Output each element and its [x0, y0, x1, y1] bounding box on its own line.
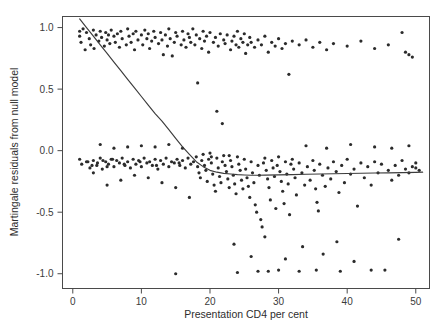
- data-point: [134, 30, 137, 33]
- data-point: [397, 238, 400, 241]
- data-point: [241, 187, 244, 190]
- data-point: [262, 161, 265, 164]
- data-point: [180, 43, 183, 46]
- data-point: [92, 159, 95, 162]
- data-point: [248, 196, 251, 199]
- data-point: [270, 41, 273, 44]
- data-point: [277, 155, 280, 158]
- data-point: [127, 35, 130, 38]
- data-point: [198, 37, 201, 40]
- data-point: [141, 43, 144, 46]
- data-point: [92, 28, 95, 31]
- data-point: [196, 81, 199, 84]
- data-point: [245, 176, 248, 179]
- data-point: [236, 155, 239, 158]
- data-point: [78, 30, 81, 33]
- data-point: [229, 159, 232, 162]
- data-point: [236, 30, 239, 33]
- data-point: [151, 164, 154, 167]
- data-point: [287, 182, 290, 185]
- data-point: [166, 44, 169, 47]
- data-point: [112, 165, 115, 168]
- data-point: [162, 53, 165, 56]
- data-point: [80, 163, 83, 166]
- data-point: [322, 252, 325, 255]
- data-point: [188, 36, 191, 39]
- data-point: [252, 181, 255, 184]
- data-point: [293, 176, 296, 179]
- data-point: [318, 163, 321, 166]
- data-point: [411, 56, 414, 59]
- data-point: [407, 53, 410, 56]
- data-point: [303, 184, 306, 187]
- data-point: [148, 160, 151, 163]
- data-point: [152, 30, 155, 33]
- data-point: [171, 54, 174, 57]
- y-tick-label: 1.0: [40, 22, 54, 33]
- data-point: [298, 270, 301, 273]
- data-point: [125, 43, 128, 46]
- data-point: [173, 161, 176, 164]
- data-point: [110, 158, 113, 161]
- data-point: [226, 177, 229, 180]
- data-point: [274, 207, 277, 210]
- data-point: [267, 270, 270, 273]
- data-point: [181, 30, 184, 33]
- data-point: [370, 268, 373, 271]
- data-point: [164, 33, 167, 36]
- data-point: [126, 145, 129, 148]
- data-point: [203, 40, 206, 43]
- data-point: [276, 164, 279, 167]
- data-point: [241, 41, 244, 44]
- data-point: [335, 170, 338, 173]
- data-point: [78, 35, 81, 38]
- data-point: [394, 164, 397, 167]
- data-point: [234, 43, 237, 46]
- data-point: [210, 155, 213, 158]
- data-point: [229, 48, 232, 51]
- data-point: [295, 193, 298, 196]
- data-point: [380, 163, 383, 166]
- data-point: [397, 174, 400, 177]
- data-point: [119, 179, 122, 182]
- data-point: [211, 172, 214, 175]
- data-point: [159, 31, 162, 34]
- data-point: [223, 42, 226, 45]
- data-point: [400, 159, 403, 162]
- data-point: [359, 161, 362, 164]
- data-point: [199, 176, 202, 179]
- data-point: [107, 163, 110, 166]
- data-point: [222, 38, 225, 41]
- data-point: [284, 160, 287, 163]
- data-point: [202, 30, 205, 33]
- data-point: [339, 270, 342, 273]
- data-point: [154, 36, 157, 39]
- data-point: [200, 47, 203, 50]
- data-point: [247, 185, 250, 188]
- data-point: [143, 156, 146, 159]
- data-point: [325, 147, 328, 150]
- data-point: [140, 144, 143, 147]
- data-point: [112, 35, 115, 38]
- data-point: [99, 156, 102, 159]
- data-point: [126, 160, 129, 163]
- data-point: [133, 174, 136, 177]
- data-point: [160, 181, 163, 184]
- data-point: [291, 40, 294, 43]
- data-point: [332, 160, 335, 163]
- data-point: [107, 33, 110, 36]
- data-point: [237, 163, 240, 166]
- data-point: [324, 185, 327, 188]
- y-axis-title: Martingale residuals from null model: [8, 68, 20, 237]
- data-point: [195, 33, 198, 36]
- data-point: [244, 168, 247, 171]
- data-point: [208, 152, 211, 155]
- x-tick-label: 20: [204, 296, 216, 307]
- data-point: [370, 184, 373, 187]
- data-point: [189, 41, 192, 44]
- data-point: [175, 35, 178, 38]
- data-point: [363, 176, 366, 179]
- data-point: [147, 176, 150, 179]
- data-point: [288, 213, 291, 216]
- data-point: [213, 184, 216, 187]
